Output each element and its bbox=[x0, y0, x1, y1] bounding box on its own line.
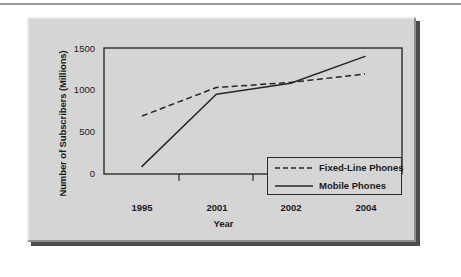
figure-panel: Number of Subscribers (Millions) 1500 10… bbox=[27, 17, 416, 242]
series-line-fixed-line-phones bbox=[142, 74, 365, 116]
legend-label-mobile-phones: Mobile Phones bbox=[319, 180, 386, 191]
series-line-mobile-phones bbox=[142, 56, 365, 166]
legend-item-mobile-phones: Mobile Phones bbox=[268, 176, 403, 195]
legend-label-fixed-line-phones: Fixed-Line Phones bbox=[319, 162, 403, 173]
plot-frame bbox=[104, 48, 402, 174]
legend-item-fixed-line-phones: Fixed-Line Phones bbox=[268, 158, 403, 177]
x-tick-label-2001: 2001 bbox=[187, 202, 247, 213]
x-axis-title: Year bbox=[29, 218, 418, 229]
dashed-line-icon bbox=[274, 163, 314, 173]
x-tick-label-1995: 1995 bbox=[112, 202, 172, 213]
page-top-rule bbox=[0, 3, 461, 5]
solid-line-icon bbox=[274, 181, 314, 191]
x-tick-label-2004: 2004 bbox=[336, 202, 396, 213]
x-tick-label-2002: 2002 bbox=[261, 202, 321, 213]
chart-legend: Fixed-Line Phones Mobile Phones bbox=[267, 157, 402, 195]
line-chart: Number of Subscribers (Millions) 1500 10… bbox=[29, 19, 418, 244]
